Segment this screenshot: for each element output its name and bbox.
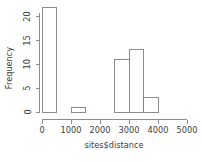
- x-axis: 010002000300040005000: [39, 120, 197, 136]
- histogram-plot: 05101520 010002000300040005000 sites$dis…: [0, 0, 202, 162]
- x-tick-label: 3000: [119, 125, 140, 135]
- x-axis-title: sites$distance: [85, 140, 144, 150]
- x-ticks-group: 010002000300040005000: [39, 120, 197, 136]
- x-tick-label: 1000: [61, 125, 82, 135]
- x-tick-label: 2000: [90, 125, 111, 135]
- bars-group: [42, 7, 158, 112]
- y-axis-title: Frequency: [4, 47, 14, 89]
- x-tick-label: 0: [39, 125, 44, 135]
- y-tick-label: 10: [23, 59, 33, 69]
- histogram-bar: [71, 107, 86, 112]
- y-tick-label: 20: [23, 11, 33, 21]
- y-tick-label: 0: [23, 109, 33, 114]
- y-tick-label: 5: [23, 86, 33, 91]
- x-tick-label: 4000: [148, 125, 169, 135]
- histogram-bar: [129, 50, 144, 112]
- x-tick-label: 5000: [177, 125, 198, 135]
- histogram-bar: [115, 60, 130, 112]
- y-axis: 05101520: [23, 11, 40, 114]
- y-ticks-group: 05101520: [23, 11, 40, 114]
- histogram-canvas: 05101520 010002000300040005000 sites$dis…: [0, 0, 202, 162]
- histogram-bar: [42, 7, 57, 112]
- y-tick-label: 15: [23, 35, 33, 45]
- histogram-bar: [144, 98, 159, 112]
